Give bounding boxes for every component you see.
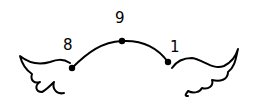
label-left: 8 <box>63 36 73 54</box>
left-wing <box>20 56 70 93</box>
label-right: 1 <box>170 38 180 56</box>
right-wing <box>172 49 238 96</box>
arc-curve <box>72 41 168 68</box>
point-left <box>69 65 75 71</box>
winged-arc-diagram: 8 9 1 <box>0 0 253 109</box>
point-right <box>165 59 171 65</box>
label-top: 9 <box>115 9 125 27</box>
point-top <box>119 38 125 44</box>
